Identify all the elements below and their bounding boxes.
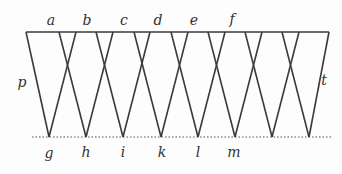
diagram-canvas: abcdefghiklmpt xyxy=(0,0,342,174)
point-label-d: d xyxy=(154,13,163,27)
point-label-k: k xyxy=(158,145,166,159)
point-label-i: i xyxy=(121,145,125,159)
point-label-g: g xyxy=(45,146,54,160)
point-label-p: p xyxy=(18,75,27,89)
zigzag-arm-left xyxy=(134,32,161,137)
zigzag-arm-right xyxy=(123,32,150,137)
point-label-h: h xyxy=(81,145,90,159)
point-label-b: b xyxy=(83,13,92,27)
left-edge xyxy=(26,32,49,137)
point-label-e: e xyxy=(190,13,198,27)
point-label-f: f xyxy=(229,12,234,26)
point-label-c: c xyxy=(120,13,128,27)
point-label-a: a xyxy=(47,13,55,27)
point-label-t: t xyxy=(321,73,327,87)
point-label-l: l xyxy=(196,145,200,159)
point-label-m: m xyxy=(227,145,240,159)
